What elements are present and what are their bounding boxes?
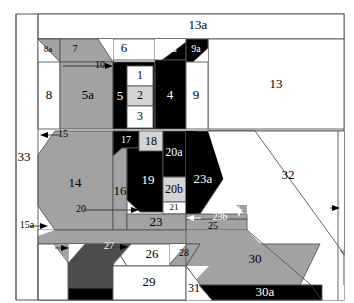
label-23: 26 [146,246,160,261]
region-26-right-white [322,285,344,300]
label-33: 33 [18,149,31,164]
label-13: 16 [114,183,128,198]
label-16: 20a [165,145,183,159]
label-15: 19 [142,172,155,187]
figure-canvas: 13a 13 6 8a 7 7a 9a 8 5a 5 4 9 1 2 3 10 … [0,0,354,303]
label-12: 14 [69,175,83,190]
label-14: 18 [145,134,157,148]
label-3: 3 [137,109,143,123]
label-6: 5a [82,87,95,102]
label-17: 20b [165,182,183,196]
label-2: 2 [137,88,143,102]
label-9: 9 [193,87,200,102]
label-8a: 8a [44,44,53,54]
label-27: 31 [188,281,200,295]
region-29-fg [68,288,113,300]
label-12a-upper: 15 [58,128,68,139]
region-diagram-svg: 13a 13 6 8a 7 7a 9a 8 5a 5 4 9 1 2 3 10 … [0,0,354,303]
label-26: 30a [256,284,275,299]
label-23b: 28 [179,247,189,258]
label-12a-lower: 15a [20,219,35,230]
label-18: 21 [170,202,179,212]
label-8: 8 [46,87,53,102]
label-15a: 20 [76,203,86,214]
label-25: 30 [249,251,262,266]
label-9a: 9a [191,43,201,54]
label-7a: 7 [73,43,78,54]
label-5: 5 [117,88,124,103]
label-13a: 17 [121,134,131,145]
label-23a: 27 [104,240,114,251]
label-11: 13a [189,17,208,32]
label-7b: 7a [167,43,177,54]
label-4: 4 [167,87,174,102]
label-20b: 24 [232,193,242,204]
label-1: 1 [137,68,143,82]
label-7: 6 [121,40,128,55]
label-5a: 10 [95,59,105,70]
label-19: 23 [150,214,163,229]
label-24: 29 [143,274,156,289]
label-20: 23a [194,171,213,186]
label-21: 25 [208,220,218,231]
label-10: 13 [270,76,283,91]
label-31: 32 [282,167,295,182]
